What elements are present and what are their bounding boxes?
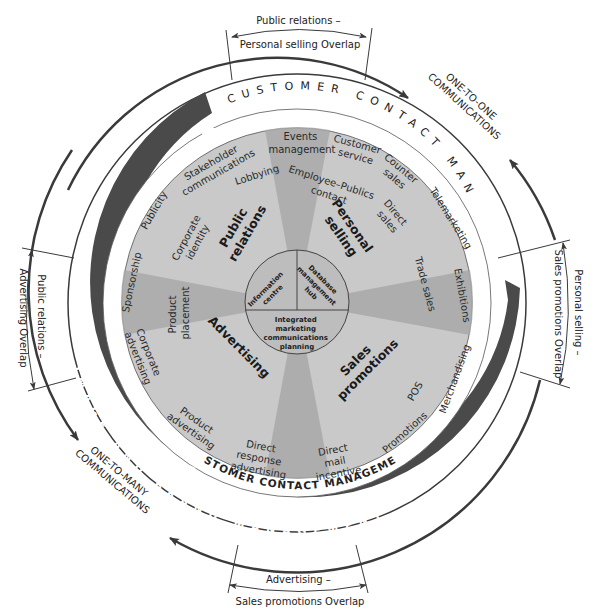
marketing-communications-wheel: Information centre Database management h… bbox=[0, 0, 594, 613]
right-flow-arrow bbox=[510, 160, 555, 240]
overlap-top bbox=[226, 28, 372, 80]
overlap-left-label: Public relations – Advertising Overlap bbox=[18, 268, 47, 367]
overlap-bottom-label: Advertising – Sales promotions Overlap bbox=[236, 574, 365, 607]
